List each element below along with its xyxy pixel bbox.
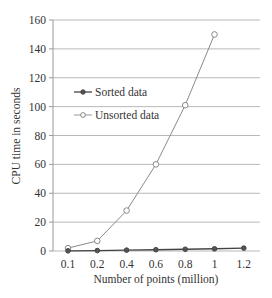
- legend-sorted-label: Sorted data: [95, 86, 147, 98]
- y-tick-label: 120: [29, 72, 47, 84]
- x-tick-label: 0.2: [90, 258, 105, 270]
- y-tick-label: 40: [35, 187, 47, 199]
- x-tick-label: 0.1: [61, 258, 76, 270]
- line-chart: 020406080100120140160 0.10.20.40.60.811.…: [0, 0, 272, 298]
- data-point-unsorted: [95, 238, 101, 244]
- y-tick-label: 100: [29, 101, 47, 113]
- data-point-sorted: [183, 247, 188, 252]
- legend-sorted-marker-icon: [81, 90, 85, 94]
- y-tick-label: 160: [29, 14, 47, 26]
- y-axis-label: CPU time in seconds: [10, 87, 22, 184]
- legend: Sorted data Unsorted data: [74, 86, 159, 121]
- x-axis-label: Number of points (million): [94, 273, 219, 286]
- data-series: [65, 32, 246, 254]
- x-tick-label: 0.6: [149, 258, 164, 270]
- data-point-sorted: [154, 247, 159, 252]
- y-tick-label: 140: [29, 43, 47, 55]
- x-tick-label: 0.4: [119, 258, 134, 270]
- data-point-unsorted: [182, 102, 188, 108]
- data-point-unsorted: [212, 32, 218, 38]
- y-tick-label: 60: [35, 158, 47, 170]
- legend-unsorted-marker-icon: [81, 113, 86, 118]
- data-point-sorted: [66, 249, 71, 254]
- x-tick-label: 1: [212, 258, 218, 270]
- gridlines: [49, 20, 260, 251]
- series-line-unsorted: [68, 34, 215, 248]
- data-point-sorted: [212, 247, 217, 252]
- data-point-sorted: [242, 246, 247, 251]
- data-point-unsorted: [153, 162, 159, 168]
- x-tick-label: 0.8: [178, 258, 193, 270]
- y-axis-ticks: 020406080100120140160: [29, 14, 47, 257]
- data-point-sorted: [95, 248, 100, 253]
- y-tick-label: 80: [35, 130, 47, 142]
- data-point-sorted: [124, 248, 129, 253]
- y-tick-label: 0: [40, 245, 46, 257]
- y-tick-label: 20: [35, 216, 47, 228]
- legend-unsorted-label: Unsorted data: [95, 109, 159, 121]
- data-point-unsorted: [124, 208, 130, 214]
- x-axis-ticks: 0.10.20.40.60.811.2: [61, 258, 251, 270]
- x-tick-label: 1.2: [237, 258, 252, 270]
